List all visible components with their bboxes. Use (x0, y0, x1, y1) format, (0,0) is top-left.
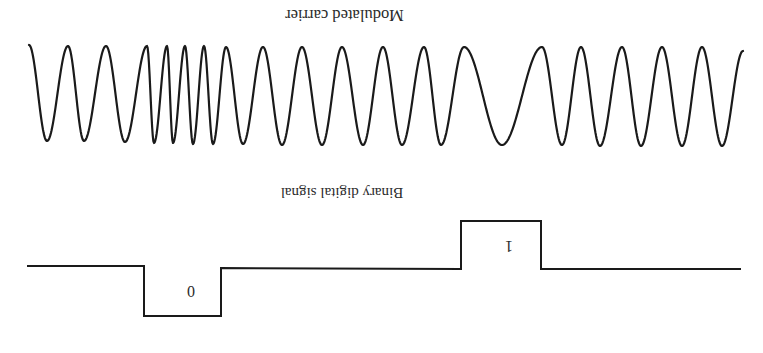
modulated-carrier-waveform (29, 45, 743, 146)
binary-digital-signal-waveform (27, 221, 741, 316)
fsk-diagram: Modulated carrier Binary digital signal … (0, 0, 763, 353)
bit-zero-label: 0 (184, 282, 198, 300)
binary-digital-signal-label: Binary digital signal (262, 184, 422, 201)
modulated-carrier-label: Modulated carrier (262, 5, 427, 25)
diagram-canvas (0, 0, 763, 353)
bit-one-label: 1 (502, 237, 516, 255)
